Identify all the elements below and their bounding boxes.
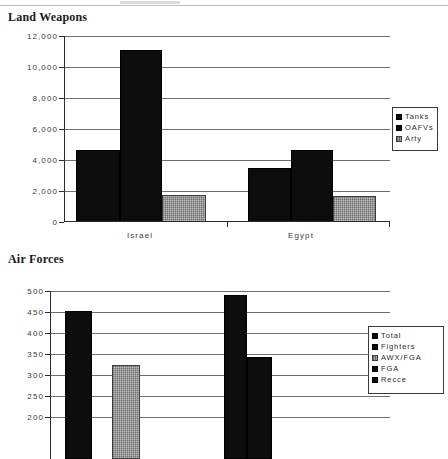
chart1-ytick-10000: 10,000	[0, 63, 58, 72]
recce-swatch-icon	[372, 377, 378, 383]
chart2-ytick-200: 200	[0, 413, 44, 422]
chart2-tick-450	[45, 312, 50, 313]
chart2-bar-israel-total	[65, 311, 92, 459]
chart2-gridline-300	[50, 375, 390, 376]
chart1-legend-item-arty: Arty	[396, 133, 433, 144]
oafvs-swatch-icon	[396, 125, 402, 131]
chart2-legend-item-total: Total	[372, 330, 439, 341]
chart1-ytick-4000: 4,000	[0, 156, 58, 165]
chart1-ytick-0: 0	[0, 218, 58, 227]
chart2-legend: Total Fighters AWX/FGA FGA Recce	[368, 326, 444, 394]
chart2-legend-item-awxfga: AWX/FGA	[372, 352, 439, 363]
chart1-legend-label-oafvs: OAFVs	[405, 123, 434, 133]
chart1-bar-israel-tanks	[76, 150, 120, 222]
chart2-legend-label-total: Total	[381, 331, 401, 341]
chart1-legend-item-oafvs: OAFVs	[396, 122, 433, 133]
chart2-ytick-400: 400	[0, 329, 44, 338]
chart1-tick-8000	[59, 98, 64, 99]
chart2-tick-350	[45, 354, 50, 355]
scan-artifact-line	[0, 5, 448, 6]
chart1-ytick-12000: 12,000	[0, 32, 58, 41]
fga-swatch-icon	[372, 366, 378, 372]
chart1-legend: Tanks OAFVs Arty	[392, 107, 438, 151]
chart1-bar-israel-oafvs	[120, 50, 162, 222]
chart1-xaxis-separator-tick	[227, 222, 228, 227]
chart2-gridline-500	[50, 291, 390, 292]
chart1-legend-label-tanks: Tanks	[405, 112, 429, 122]
chart2-tick-300	[45, 375, 50, 376]
chart2-tick-400	[45, 333, 50, 334]
chart2-plot-area	[50, 291, 390, 459]
chart2-legend-label-fga: FGA	[381, 364, 399, 374]
chart2-bar-israel-awxfga	[112, 365, 140, 459]
chart1-ytick-8000: 8,000	[0, 94, 58, 103]
chart1-xtick-israel: Israel	[90, 231, 190, 240]
chart2-ytick-250: 250	[0, 392, 44, 401]
chart2-tick-250	[45, 396, 50, 397]
scan-artifact-smudge	[120, 1, 180, 4]
chart1-bar-egypt-oafvs	[291, 150, 333, 222]
chart1-tick-10000	[59, 67, 64, 68]
chart1-legend-connector	[337, 129, 355, 130]
chart2-ytick-500: 500	[0, 287, 44, 296]
awxfga-swatch-icon	[372, 355, 378, 361]
chart1-ytick-2000: 2,000	[0, 187, 58, 196]
chart1-title: Land Weapons	[8, 10, 87, 25]
chart1-bar-egypt-arty	[333, 196, 376, 222]
chart2-gridline-400	[50, 333, 390, 334]
chart2-legend-item-fga: FGA	[372, 363, 439, 374]
fighters-swatch-icon	[372, 344, 378, 350]
chart2-legend-label-recce: Recce	[381, 375, 407, 385]
chart1-legend-label-arty: Arty	[405, 134, 422, 144]
land-weapons-chart: 12,000 10,000 8,000 6,000 4,000 2,000 0	[0, 30, 448, 245]
tanks-swatch-icon	[396, 114, 402, 120]
chart1-tick-6000	[59, 129, 64, 130]
chart2-gridline-350	[50, 354, 390, 355]
chart1-bar-israel-arty	[162, 195, 206, 222]
arty-swatch-icon	[396, 136, 402, 142]
chart2-ytick-350: 350	[0, 350, 44, 359]
chart2-gridline-200	[50, 417, 390, 418]
chart2-y-axis	[50, 291, 51, 459]
chart1-legend-item-tanks: Tanks	[396, 111, 433, 122]
chart2-ytick-450: 450	[0, 308, 44, 317]
chart1-ytick-6000: 6,000	[0, 125, 58, 134]
chart2-ytick-300: 300	[0, 371, 44, 380]
chart1-gridline-12000	[64, 36, 390, 37]
chart1-gridline-8000	[64, 98, 390, 99]
chart1-tick-2000	[59, 191, 64, 192]
chart1-xtick-egypt: Egypt	[251, 231, 351, 240]
total-swatch-icon	[372, 333, 378, 339]
chart2-legend-label-awxfga: AWX/FGA	[381, 353, 422, 363]
chart1-tick-12000	[59, 36, 64, 37]
chart2-tick-500	[45, 291, 50, 292]
chart2-legend-item-recce: Recce	[372, 374, 439, 385]
chart2-legend-item-fighters: Fighters	[372, 341, 439, 352]
chart2-bar-egypt-fighters	[247, 357, 272, 459]
chart2-bar-egypt-total	[224, 295, 247, 459]
chart2-title: Air Forces	[8, 252, 64, 267]
air-forces-chart: 500 450 400 350 300 250 200	[0, 272, 448, 394]
chart2-tick-200	[45, 417, 50, 418]
chart1-bar-egypt-tanks	[248, 168, 291, 222]
chart2-gridline-250	[50, 396, 390, 397]
chart1-tick-4000	[59, 160, 64, 161]
chart1-xaxis-end-tick	[389, 222, 390, 227]
chart2-legend-label-fighters: Fighters	[381, 342, 415, 352]
chart1-gridline-10000	[64, 67, 390, 68]
chart1-y-axis	[64, 36, 65, 222]
chart2-gridline-450	[50, 312, 390, 313]
chart1-tick-0	[59, 222, 64, 223]
